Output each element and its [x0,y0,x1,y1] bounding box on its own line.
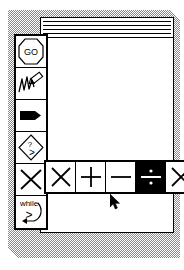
titlebar-stripe [43,25,171,26]
titlebar-stripe [43,29,171,30]
go-button-label: GO [24,47,38,57]
operator-toolbar [44,160,184,194]
titlebar-stripe [43,21,171,22]
conditional-button[interactable]: ? > [16,132,46,164]
op-plus-button[interactable] [76,162,106,192]
op-divide-button[interactable] [136,162,166,192]
delete-button[interactable] [16,164,46,196]
conditional-gt-glyph: > [29,147,35,158]
pointer-tag-button[interactable] [16,100,46,132]
screen: GO [0,0,184,270]
draw-button[interactable] [16,68,46,100]
x-cross-icon [48,164,74,190]
x-cross-icon [16,164,46,195]
octagon-go-icon: GO [16,36,46,67]
op-minus-button[interactable] [106,162,136,192]
diamond-question-icon: ? > [16,132,46,163]
mouse-cursor [110,194,121,210]
black-tag-arrow-icon [16,100,46,131]
op-cross-button[interactable] [46,162,76,192]
divide-icon [138,164,164,190]
while-loop-button[interactable]: while > [16,196,46,228]
op-multiply-button[interactable] [166,162,184,192]
titlebar-stripe [43,33,171,34]
while-loop-icon: while > [16,196,46,227]
window-titlebar[interactable] [41,18,173,38]
go-button[interactable]: GO [16,36,46,68]
application-window [40,17,174,233]
while-loop-label: while [19,199,39,208]
plus-icon [78,164,104,190]
window-canvas[interactable] [41,38,173,232]
scribble-pencil-icon [16,68,46,99]
tool-palette: GO [14,34,48,230]
minus-icon [108,164,134,190]
multiply-icon [168,164,184,190]
shadow-notch-bottom-left [8,248,18,258]
